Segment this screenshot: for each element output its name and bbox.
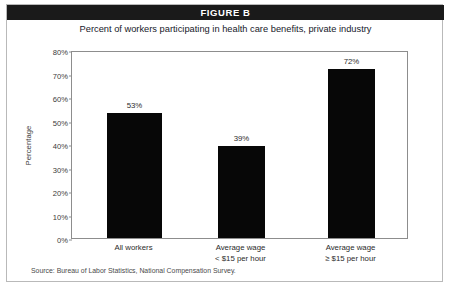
y-axis-tick-mark: [69, 146, 72, 147]
y-axis-tick-mark: [69, 193, 72, 194]
plot-area: 80%70%60%50%40%30%20%10%0%53%39%72%: [71, 51, 408, 239]
y-axis-tick-mark: [69, 240, 72, 241]
x-axis-category-label: Average wage≥ $15 per hour: [291, 243, 411, 264]
y-axis-tick-mark: [69, 169, 72, 170]
y-axis-tick-mark: [69, 216, 72, 217]
figure-container: FIGURE B Percent of workers participatin…: [6, 4, 443, 282]
chart-title: Percent of workers participating in heal…: [7, 24, 444, 34]
source-note: Source: Bureau of Labor Statistics, Nati…: [31, 267, 236, 274]
y-axis-tick-mark: [69, 75, 72, 76]
x-axis-category-label: Average wage< $15 per hour: [181, 243, 301, 264]
figure-banner: FIGURE B: [7, 5, 444, 20]
x-axis-category-line: < $15 per hour: [181, 254, 301, 265]
x-axis-category-line: Average wage: [291, 243, 411, 254]
x-axis-category-line: ≥ $15 per hour: [291, 254, 411, 265]
y-axis-title-label: Percentage: [25, 125, 34, 165]
bar: 39%: [218, 146, 265, 238]
y-axis-title: Percentage: [23, 51, 35, 239]
bar: 72%: [328, 69, 375, 238]
figure-banner-label: FIGURE B: [200, 7, 250, 18]
bar: 53%: [107, 113, 162, 238]
x-axis-category-line: All workers: [74, 243, 194, 254]
x-axis-category-line: Average wage: [181, 243, 301, 254]
bar-value-label: 39%: [234, 134, 250, 143]
x-axis-category-label: All workers: [74, 243, 194, 254]
y-axis-tick-mark: [69, 122, 72, 123]
y-axis-tick-mark: [69, 99, 72, 100]
bar-value-label: 53%: [127, 101, 143, 110]
y-axis-tick-mark: [69, 52, 72, 53]
bar-value-label: 72%: [344, 57, 360, 66]
